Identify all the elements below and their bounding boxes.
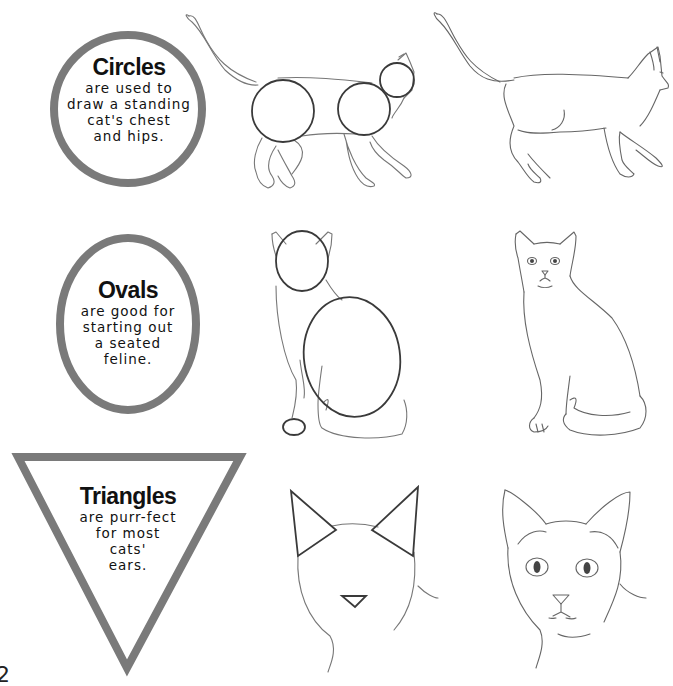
seated-cat-finished-drawing <box>515 231 646 435</box>
circles-line-1: are used to <box>58 80 200 96</box>
seated-cat-construction-drawing <box>272 232 407 438</box>
ovals-label: Ovals are good for starting out a seated… <box>60 278 196 367</box>
ovals-line-4: feline. <box>60 351 196 367</box>
circles-label: Circles are used to draw a standing cat'… <box>58 55 200 144</box>
cat-head-construction-drawing <box>298 524 438 672</box>
triangles-title: Triangles <box>58 484 198 509</box>
triangles-line-1: are purr-fect <box>58 509 198 525</box>
standing-cat-construction-drawing <box>186 15 414 188</box>
ovals-line-3: a seated <box>60 335 196 351</box>
triangles-label: Triangles are purr-fect for most cats' e… <box>58 484 198 573</box>
circles-line-2: draw a standing <box>58 96 200 112</box>
page-number: 2 <box>0 662 10 686</box>
ovals-line-1: are good for <box>60 303 196 319</box>
triangles-line-3: cats' <box>58 541 198 557</box>
ovals-title: Ovals <box>60 278 196 303</box>
finished-head-pupils <box>534 561 591 574</box>
circles-title: Circles <box>58 55 200 80</box>
circles-line-4: and hips. <box>58 128 200 144</box>
triangles-line-2: for most <box>58 525 198 541</box>
circles-line-3: cat's chest <box>58 112 200 128</box>
seated-cat-eyes <box>530 259 557 263</box>
construction-circles <box>252 63 414 142</box>
cat-head-finished-drawing <box>503 490 646 668</box>
ovals-line-2: starting out <box>60 319 196 335</box>
construction-ovals <box>276 231 408 435</box>
triangle-ears-and-nose <box>291 487 418 607</box>
triangles-line-4: ears. <box>58 557 198 573</box>
standing-cat-finished-drawing <box>434 13 668 183</box>
